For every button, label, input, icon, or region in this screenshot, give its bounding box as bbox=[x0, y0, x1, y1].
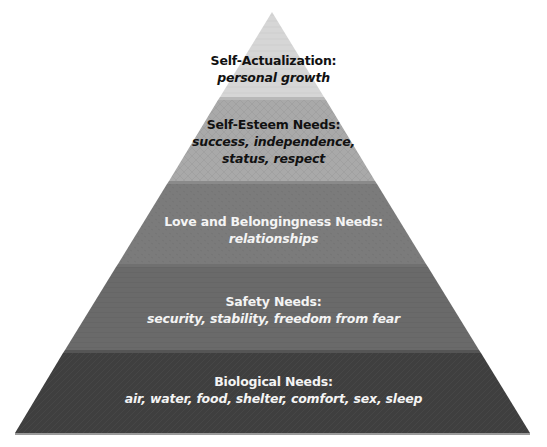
tier-divider bbox=[63, 350, 481, 353]
tier-title: Self-Actualization: bbox=[0, 52, 547, 69]
tier-label-love-belongingness: Love and Belongingness Needs: relationsh… bbox=[0, 213, 547, 247]
tier-label-self-actualization: Self-Actualization: personal growth bbox=[0, 52, 547, 86]
tier-description: status, respect bbox=[0, 150, 547, 167]
tier-label-safety: Safety Needs: security, stability, freed… bbox=[0, 293, 547, 327]
tier-title: Love and Belongingness Needs: bbox=[0, 213, 547, 230]
tier-label-self-esteem: Self-Esteem Needs: success, independence… bbox=[0, 116, 547, 167]
tier-divider bbox=[167, 181, 377, 184]
tier-title: Safety Needs: bbox=[0, 293, 547, 310]
tier-description: success, independence, bbox=[0, 133, 547, 150]
tier-divider bbox=[116, 264, 428, 267]
pyramid-base-edge bbox=[15, 433, 530, 435]
tier-description: personal growth bbox=[0, 69, 547, 86]
tier-title: Self-Esteem Needs: bbox=[0, 116, 547, 133]
tier-divider bbox=[218, 97, 326, 100]
tier-description: relationships bbox=[0, 230, 547, 247]
tier-description: air, water, food, shelter, comfort, sex,… bbox=[0, 390, 547, 407]
tier-title: Biological Needs: bbox=[0, 373, 547, 390]
tier-description: security, stability, freedom from fear bbox=[0, 310, 547, 327]
tier-label-biological: Biological Needs: air, water, food, shel… bbox=[0, 373, 547, 407]
